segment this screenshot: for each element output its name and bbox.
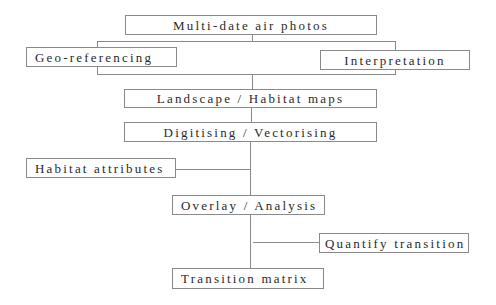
connector-attributes — [176, 169, 250, 170]
connector-lower-trunk — [250, 215, 251, 268]
node-label: Quantify transition — [325, 237, 465, 250]
node-landscape-habitat-maps: Landscape / Habitat maps — [124, 89, 377, 108]
node-interpretation: Interpretation — [320, 50, 470, 70]
connector-maps-to-digitise — [251, 108, 252, 122]
node-label: Habitat attributes — [35, 162, 165, 175]
node-label: Digitising / Vectorising — [164, 126, 338, 139]
node-label: Multi-date air photos — [173, 19, 329, 32]
node-digitising-vectorising: Digitising / Vectorising — [124, 122, 377, 142]
node-geo-referencing: Geo-referencing — [26, 47, 177, 67]
node-overlay-analysis: Overlay / Analysis — [172, 195, 325, 215]
connector-right-top — [395, 41, 396, 50]
node-label: Overlay / Analysis — [181, 199, 317, 212]
node-label: Landscape / Habitat maps — [157, 92, 344, 105]
connector-bracket-top — [97, 41, 396, 42]
node-habitat-attributes: Habitat attributes — [26, 158, 176, 178]
connector-bracket-bottom — [97, 74, 396, 75]
connector-quantify — [253, 242, 319, 243]
node-label: Geo-referencing — [35, 51, 153, 64]
node-multi-date-air-photos: Multi-date air photos — [125, 15, 377, 35]
connector-left-bottom — [97, 67, 98, 74]
connector-to-maps — [252, 74, 253, 89]
connector-main-trunk — [250, 142, 251, 195]
node-label: Transition matrix — [181, 272, 309, 285]
node-quantify-transition: Quantify transition — [319, 233, 469, 253]
node-transition-matrix: Transition matrix — [172, 268, 324, 289]
node-label: Interpretation — [344, 54, 446, 67]
